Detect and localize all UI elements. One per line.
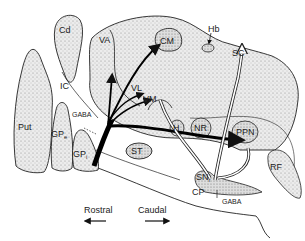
label-cd: Cd (59, 26, 71, 35)
label-h: H (173, 124, 180, 133)
label-gaba-upper: GABA (72, 111, 91, 118)
label-vl: VL (131, 84, 142, 93)
reticular-formation (268, 150, 301, 198)
label-caudal: Caudal (138, 206, 167, 215)
label-sc: SC (232, 49, 245, 58)
label-cp: CP (192, 188, 205, 197)
label-nr: NR (194, 124, 207, 133)
label-hb: Hb (208, 25, 220, 34)
label-va: VA (99, 36, 110, 45)
putamen (14, 49, 52, 172)
basal-ganglia-diagram: Cd IC Put GPe GPi VA VL VM CM Hb SC H NR… (0, 0, 305, 241)
label-cm: CM (160, 37, 174, 46)
label-vm: VM (143, 95, 157, 104)
label-gpe: GPe (51, 130, 67, 140)
label-rostral: Rostral (84, 206, 113, 215)
label-rf: RF (270, 163, 282, 172)
hb-nucleus (202, 44, 214, 52)
label-st: ST (131, 147, 143, 156)
label-snr: SNr (196, 173, 211, 183)
label-put: Put (18, 123, 32, 132)
label-gpi: GPi (73, 150, 87, 160)
label-ppn: PPN (236, 128, 255, 137)
label-ic: IC (60, 82, 69, 91)
label-gaba-lower: GABA (222, 198, 241, 205)
